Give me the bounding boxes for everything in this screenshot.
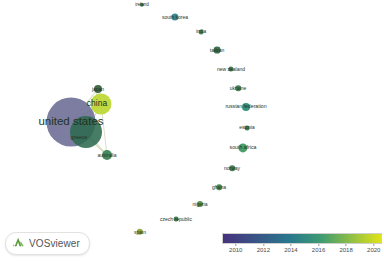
vosviewer-network-canvas[interactable]: united stateschinagreecejapanaustraliair… (0, 0, 384, 261)
vosviewer-mountain-icon (12, 235, 25, 253)
vosviewer-logo[interactable]: VOSviewer (5, 232, 90, 255)
network-node[interactable] (94, 85, 102, 93)
legend-tick: 2014 (284, 244, 297, 253)
legend-tick: 2018 (339, 244, 352, 253)
legend-tick: 2016 (312, 244, 325, 253)
network-node[interactable] (235, 85, 241, 91)
network-node[interactable] (140, 3, 144, 7)
network-node[interactable] (102, 150, 112, 160)
legend-tick-labels: 201020122014201620182020 (222, 244, 382, 255)
network-node[interactable] (137, 229, 143, 235)
network-node[interactable] (199, 30, 204, 35)
network-node[interactable] (216, 184, 222, 190)
network-node[interactable] (238, 143, 247, 152)
vosviewer-wordmark: VOSviewer (29, 238, 80, 249)
network-node[interactable] (229, 165, 235, 171)
legend-gradient-bar (222, 233, 382, 244)
network-node[interactable] (70, 116, 102, 148)
network-node[interactable] (228, 66, 233, 71)
network-node[interactable] (197, 201, 203, 207)
legend-tick: 2012 (257, 244, 270, 253)
network-node[interactable] (214, 47, 221, 54)
network-node[interactable] (171, 13, 178, 20)
network-node[interactable] (174, 217, 179, 222)
network-node[interactable] (245, 126, 250, 131)
network-node[interactable] (91, 94, 112, 115)
legend-tick: 2010 (229, 244, 242, 253)
color-legend: 201020122014201620182020 (222, 233, 382, 255)
legend-tick: 2020 (367, 244, 380, 253)
network-node[interactable] (242, 103, 250, 111)
